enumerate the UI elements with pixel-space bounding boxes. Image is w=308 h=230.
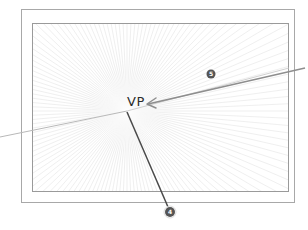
perspective-diagram: VP 5 4 — [0, 0, 308, 230]
svg-text:4: 4 — [168, 208, 172, 215]
annotation-badge-4: 4 — [164, 206, 176, 218]
svg-text:5: 5 — [209, 70, 213, 77]
vp-label: VP — [127, 94, 145, 109]
annotation-badge-5: 5 — [207, 70, 216, 79]
